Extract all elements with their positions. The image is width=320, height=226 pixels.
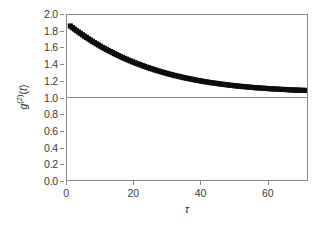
y-tick-mark — [60, 14, 64, 15]
y-axis-title-arg: (t) — [17, 85, 29, 95]
x-tick-mark — [268, 181, 269, 185]
x-tick-mark — [133, 181, 134, 185]
y-tick-mark — [60, 98, 64, 99]
x-tick-label: 20 — [128, 188, 139, 199]
y-tick-mark — [60, 114, 64, 115]
y-axis-title: g(2)(t) — [15, 85, 29, 110]
y-tick-label: 1.6 — [44, 42, 58, 53]
y-tick-label: 0.6 — [44, 126, 58, 137]
x-axis: 0204060 — [0, 181, 320, 205]
y-tick-mark — [60, 131, 64, 132]
y-tick-label: 1.4 — [44, 59, 58, 70]
x-tick-label: 40 — [195, 188, 206, 199]
y-tick-label: 1.2 — [44, 76, 58, 87]
y-tick-mark — [60, 31, 64, 32]
y-tick-mark — [60, 47, 64, 48]
plot-area — [66, 14, 308, 181]
x-tick-label: 0 — [63, 188, 69, 199]
chart-figure: 0.00.20.40.60.81.01.21.41.61.82.0 g(2)(t… — [0, 0, 320, 226]
y-tick-label: 0.8 — [44, 109, 58, 120]
y-tick-label: 1.8 — [44, 25, 58, 36]
y-tick-mark — [60, 164, 64, 165]
y-tick-label: 2.0 — [44, 9, 58, 20]
y-tick-mark — [60, 81, 64, 82]
y-axis: 0.00.20.40.60.81.01.21.41.61.82.0 — [0, 0, 64, 181]
y-axis-title-g: g — [17, 104, 29, 110]
y-tick-label: 0.2 — [44, 159, 58, 170]
x-tick-mark — [66, 181, 67, 185]
y-tick-mark — [60, 64, 64, 65]
plot-canvas — [67, 15, 307, 180]
x-tick-mark — [200, 181, 201, 185]
x-axis-title: τ — [185, 203, 189, 215]
y-tick-mark — [60, 148, 64, 149]
data-series — [68, 23, 307, 93]
y-tick-label: 0.4 — [44, 142, 58, 153]
x-tick-label: 60 — [262, 188, 273, 199]
y-tick-label: 1.0 — [44, 92, 58, 103]
y-axis-title-superscript: (2) — [15, 94, 24, 103]
data-point — [304, 88, 307, 93]
